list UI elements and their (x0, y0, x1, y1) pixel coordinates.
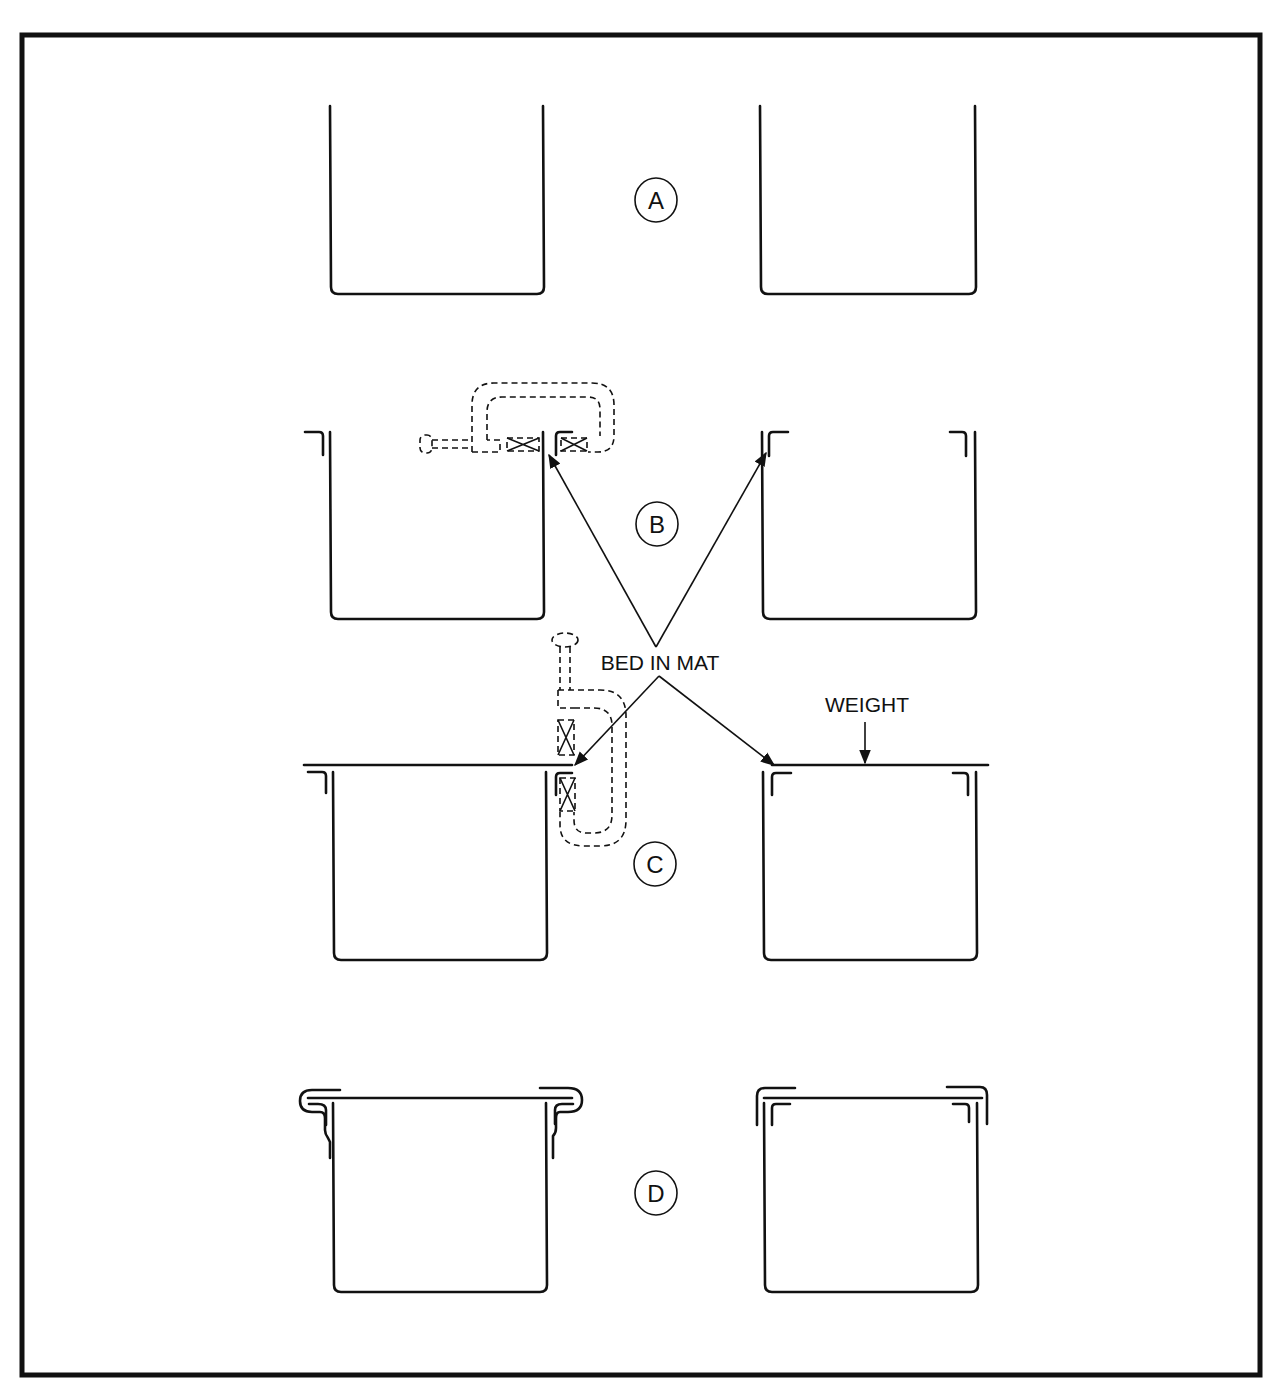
stage-c-left-mold (333, 772, 547, 960)
stage-c-left-flange-outer (308, 772, 326, 793)
stage-b-right-flange-left (769, 432, 788, 456)
stage-c: WEIGHT C (304, 633, 988, 960)
stage-c-right-mold (763, 772, 977, 960)
stage-a-label-badge: A (635, 178, 677, 222)
stage-a: A (330, 106, 976, 294)
stage-b-c-clamp (420, 383, 614, 453)
stage-c-right-flange-right (953, 773, 968, 795)
stage-a-right-mold (760, 106, 976, 294)
stage-c-label: C (646, 851, 663, 878)
stage-c-right-flange-left (772, 773, 791, 795)
stage-b-left-flange-outer (305, 432, 323, 455)
weight-label: WEIGHT (825, 693, 909, 716)
stage-c-label-badge: C (634, 842, 676, 886)
stage-a-left-mold (330, 106, 544, 294)
stage-d-right-inner-flange-right (953, 1104, 969, 1122)
stage-d-label: D (647, 1180, 664, 1207)
stage-d-left-mold (333, 1103, 547, 1292)
weight-callout: WEIGHT (825, 693, 909, 763)
figure-border (22, 35, 1260, 1375)
bed-in-mat-label: BED IN MAT (601, 651, 720, 674)
stage-d-right-mold (764, 1103, 978, 1292)
stage-a-label: A (648, 187, 664, 214)
stage-d: D (300, 1087, 987, 1292)
stage-d-label-badge: D (635, 1171, 677, 1215)
stage-b-label: B (649, 511, 665, 538)
stage-d-right-inner-flange-left (772, 1104, 790, 1125)
stage-b-left-mold (330, 432, 544, 619)
stage-b: B (305, 383, 976, 619)
diagram-figure: A B BED (0, 0, 1271, 1389)
bed-in-mat-callout: BED IN MAT (549, 453, 774, 765)
stage-b-right-flange-right (950, 432, 966, 456)
stage-b-label-badge: B (636, 502, 678, 546)
stage-b-right-mold (762, 432, 976, 619)
stage-d-right-outer-flange-left (757, 1088, 795, 1125)
